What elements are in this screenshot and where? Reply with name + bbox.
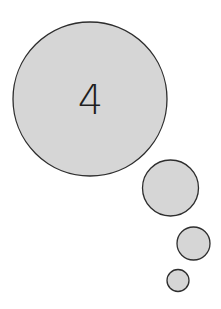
thought-bubble-graphic: 4	[0, 0, 221, 309]
medium-bubble	[143, 160, 199, 216]
bubble-number: 4	[78, 77, 103, 123]
small-bubble	[177, 227, 210, 260]
tiny-bubble	[167, 270, 189, 292]
